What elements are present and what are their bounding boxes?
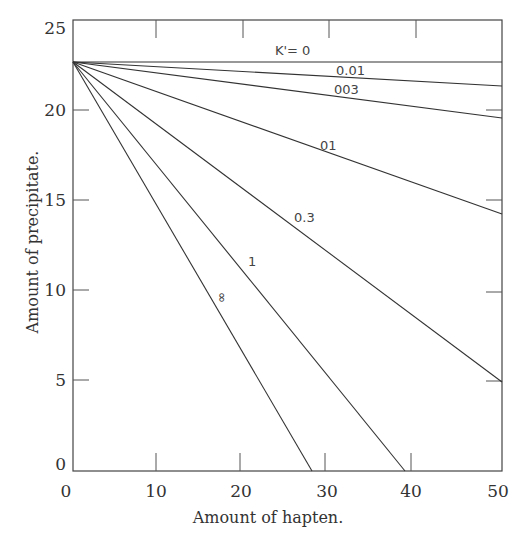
curve-k1 bbox=[73, 62, 405, 471]
y-ticks bbox=[73, 110, 502, 381]
svg-text:20: 20 bbox=[230, 481, 252, 501]
label-k1: 1 bbox=[248, 254, 256, 269]
label-k03: 0.3 bbox=[294, 210, 315, 225]
chart: K'= 0 0.01 003 01 0.3 1 ∞ 25 20 15 10 5 … bbox=[0, 0, 530, 535]
curve-k01 bbox=[73, 62, 502, 214]
svg-text:15: 15 bbox=[44, 190, 66, 210]
svg-text:20: 20 bbox=[44, 100, 66, 120]
curve-kinf bbox=[73, 62, 312, 471]
svg-text:50: 50 bbox=[487, 481, 509, 501]
svg-text:0: 0 bbox=[61, 481, 72, 501]
curve-k001 bbox=[73, 62, 502, 86]
y-axis-title: Amount of precipitate. bbox=[23, 151, 42, 335]
svg-text:5: 5 bbox=[55, 370, 66, 390]
svg-text:10: 10 bbox=[145, 481, 167, 501]
svg-text:10: 10 bbox=[44, 280, 66, 300]
svg-text:0: 0 bbox=[55, 454, 66, 474]
x-axis-title: Amount of hapten. bbox=[192, 508, 344, 527]
label-k0: K'= 0 bbox=[275, 43, 310, 58]
label-k01: 01 bbox=[320, 138, 337, 153]
label-kinf: ∞ bbox=[215, 292, 230, 303]
curves bbox=[73, 62, 502, 471]
plot-frame bbox=[73, 20, 502, 471]
svg-text:40: 40 bbox=[400, 481, 422, 501]
label-k003: 003 bbox=[334, 82, 359, 97]
x-tick-labels: 0 10 20 30 40 50 bbox=[61, 481, 509, 501]
y-tick-labels: 25 20 15 10 5 0 bbox=[44, 18, 66, 474]
svg-text:25: 25 bbox=[44, 18, 66, 38]
svg-text:30: 30 bbox=[316, 481, 338, 501]
x-ticks bbox=[156, 20, 416, 471]
label-k001: 0.01 bbox=[336, 63, 365, 78]
